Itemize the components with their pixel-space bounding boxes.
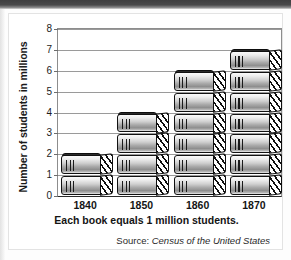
x-tick-label: 1870 bbox=[231, 199, 277, 212]
book-icon bbox=[230, 49, 282, 70]
book-icon bbox=[230, 153, 282, 174]
gridline bbox=[58, 29, 281, 30]
book-icon bbox=[174, 132, 226, 153]
y-tick-label: 5 bbox=[38, 87, 52, 97]
book-page-edges bbox=[100, 174, 113, 195]
y-axis-title: Number of students in millions bbox=[16, 26, 30, 208]
book-spine bbox=[66, 181, 74, 192]
book-icon bbox=[117, 112, 169, 133]
book-icon bbox=[117, 132, 169, 153]
chart-screenshot: Number of students in millions 012345678… bbox=[0, 0, 291, 260]
book-cover bbox=[174, 93, 215, 112]
book-spine bbox=[179, 181, 187, 192]
book-cover bbox=[230, 155, 271, 174]
plot-area: 012345678 bbox=[57, 28, 282, 197]
book-spine bbox=[235, 181, 243, 192]
book-stack bbox=[230, 49, 282, 195]
book-cover bbox=[230, 51, 271, 70]
y-tick-label: 2 bbox=[38, 149, 52, 159]
x-tick-label: 1860 bbox=[175, 199, 221, 212]
scan-artifact-left-edge bbox=[0, 9, 5, 260]
book-page-edges bbox=[156, 174, 169, 195]
book-page-edges bbox=[269, 112, 282, 133]
y-tick-mark bbox=[54, 29, 58, 30]
book-cover bbox=[174, 176, 215, 195]
book-spine bbox=[122, 181, 130, 192]
book-icon bbox=[117, 153, 169, 174]
book-spine bbox=[235, 119, 243, 130]
y-tick-label: 8 bbox=[38, 24, 52, 34]
book-spine bbox=[66, 160, 74, 171]
y-tick-mark bbox=[54, 154, 58, 155]
book-cover bbox=[230, 114, 271, 133]
book-page-edges bbox=[156, 133, 169, 154]
chart-caption: Each book equals 1 million students. bbox=[9, 214, 284, 226]
book-spine bbox=[179, 119, 187, 130]
book-icon bbox=[230, 112, 282, 133]
y-tick-mark bbox=[54, 196, 58, 197]
y-tick-label: 6 bbox=[38, 66, 52, 76]
book-spine bbox=[179, 77, 187, 88]
y-tick-label: 1 bbox=[38, 170, 52, 180]
book-page-edges bbox=[269, 70, 282, 91]
x-tick-label: 1840 bbox=[62, 199, 108, 212]
source-prefix: Source: bbox=[116, 235, 149, 246]
book-page-edges bbox=[213, 91, 226, 112]
book-page-edges bbox=[269, 91, 282, 112]
y-tick-label: 0 bbox=[38, 191, 52, 201]
book-page-edges bbox=[269, 153, 282, 174]
book-icon bbox=[174, 174, 226, 195]
book-stack bbox=[61, 153, 113, 195]
book-cover bbox=[230, 176, 271, 195]
y-tick-label: 7 bbox=[38, 45, 52, 55]
book-cover bbox=[174, 114, 215, 133]
y-tick-label: 4 bbox=[38, 108, 52, 118]
book-spine bbox=[235, 139, 243, 150]
book-cover bbox=[61, 155, 102, 174]
book-cover bbox=[230, 72, 271, 91]
book-icon bbox=[230, 70, 282, 91]
book-page-edges bbox=[269, 49, 282, 70]
book-icon bbox=[174, 112, 226, 133]
book-spine bbox=[122, 139, 130, 150]
book-icon bbox=[61, 174, 113, 195]
book-cover bbox=[230, 93, 271, 112]
y-tick-mark bbox=[54, 133, 58, 134]
book-spine bbox=[179, 160, 187, 171]
book-cover bbox=[61, 176, 102, 195]
book-page-edges bbox=[213, 153, 226, 174]
book-icon bbox=[230, 132, 282, 153]
plot-wrapper: Number of students in millions 012345678… bbox=[49, 26, 282, 211]
book-icon bbox=[230, 91, 282, 112]
x-tick-label: 1850 bbox=[118, 199, 164, 212]
book-cover bbox=[117, 176, 158, 195]
book-page-edges bbox=[156, 112, 169, 133]
book-icon bbox=[174, 91, 226, 112]
book-page-edges bbox=[269, 133, 282, 154]
book-icon bbox=[174, 70, 226, 91]
book-cover bbox=[117, 134, 158, 153]
book-spine bbox=[122, 119, 130, 130]
scan-artifact-top-bar bbox=[0, 0, 291, 9]
book-page-edges bbox=[213, 70, 226, 91]
book-icon bbox=[61, 153, 113, 174]
figure-card: Number of students in millions 012345678… bbox=[8, 13, 283, 250]
book-spine bbox=[235, 160, 243, 171]
book-cover bbox=[174, 134, 215, 153]
book-icon bbox=[117, 174, 169, 195]
book-icon bbox=[230, 174, 282, 195]
book-cover bbox=[117, 155, 158, 174]
book-spine bbox=[235, 77, 243, 88]
book-cover bbox=[230, 134, 271, 153]
x-axis-labels: 1840185018601870 bbox=[57, 199, 282, 213]
book-cover bbox=[174, 155, 215, 174]
book-spine bbox=[122, 160, 130, 171]
book-stack bbox=[117, 112, 169, 196]
book-stack bbox=[174, 70, 226, 195]
book-icon bbox=[174, 153, 226, 174]
book-spine bbox=[235, 56, 243, 67]
y-tick-mark bbox=[54, 50, 58, 51]
source-line: Source: Census of the United States bbox=[116, 235, 270, 246]
book-cover bbox=[117, 114, 158, 133]
source-title: Census of the United States bbox=[152, 235, 270, 246]
